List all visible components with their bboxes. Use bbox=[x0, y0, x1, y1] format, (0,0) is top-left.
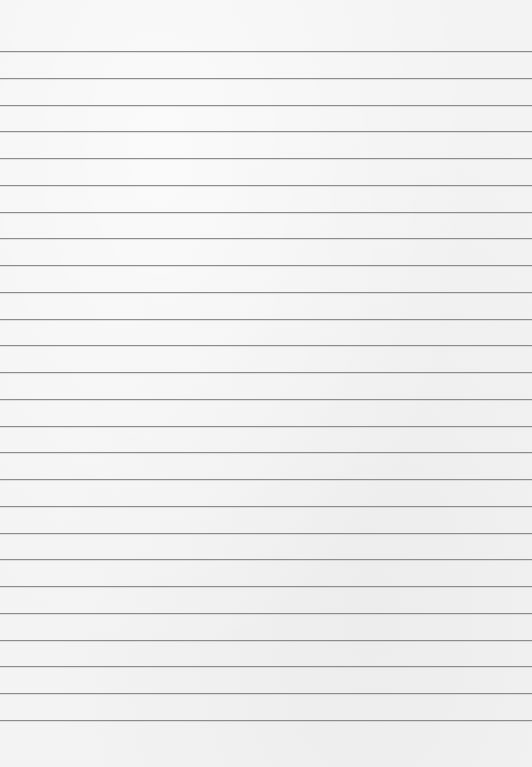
ruled-line bbox=[0, 212, 532, 213]
ruled-line bbox=[0, 559, 532, 560]
ruled-line bbox=[0, 640, 532, 641]
ruled-line bbox=[0, 533, 532, 534]
ruled-line bbox=[0, 158, 532, 159]
lined-paper bbox=[0, 0, 532, 767]
ruled-line bbox=[0, 452, 532, 453]
ruled-line bbox=[0, 345, 532, 346]
ruled-line bbox=[0, 720, 532, 721]
ruled-line bbox=[0, 479, 532, 480]
ruled-line bbox=[0, 506, 532, 507]
ruled-line bbox=[0, 319, 532, 320]
ruled-line bbox=[0, 586, 532, 587]
ruled-line bbox=[0, 265, 532, 266]
ruled-line bbox=[0, 399, 532, 400]
ruled-line bbox=[0, 666, 532, 667]
ruled-line bbox=[0, 613, 532, 614]
ruled-line bbox=[0, 51, 532, 52]
ruled-line bbox=[0, 131, 532, 132]
ruled-line bbox=[0, 693, 532, 694]
ruled-line bbox=[0, 372, 532, 373]
ruled-line bbox=[0, 185, 532, 186]
ruled-line bbox=[0, 292, 532, 293]
ruled-line bbox=[0, 78, 532, 79]
ruled-line bbox=[0, 238, 532, 239]
ruled-line bbox=[0, 426, 532, 427]
ruled-line bbox=[0, 105, 532, 106]
